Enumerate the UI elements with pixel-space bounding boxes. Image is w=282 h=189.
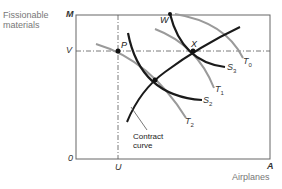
t1-label: T1	[215, 84, 224, 96]
box-frame	[76, 15, 270, 159]
s3-label: S3	[227, 62, 236, 74]
contract-curve	[127, 27, 240, 122]
curve-t0	[175, 14, 243, 58]
contract-curve-label-line2: curve	[133, 141, 163, 150]
y-axis-label-line1: Fissionable	[3, 10, 49, 20]
point-x-marker	[191, 49, 196, 54]
x-axis-label: Airplanes	[232, 172, 270, 182]
contract-curve-label-line1: Contract	[133, 132, 163, 141]
t2-label: T2	[185, 116, 194, 128]
intersection-marker	[153, 78, 158, 83]
y-axis-label: Fissionable materials	[3, 10, 49, 30]
y-axis-label-line2: materials	[3, 20, 49, 30]
point-p-label: P	[121, 40, 127, 50]
point-p-marker	[116, 49, 121, 54]
contract-curve-leader	[131, 107, 147, 130]
s2-label: S2	[203, 95, 212, 107]
contract-curve-label: Contract curve	[133, 132, 163, 150]
t0-label: T0	[243, 56, 252, 68]
x-ref-label: U	[115, 162, 122, 172]
origin-label: 0	[68, 153, 73, 163]
y-ref-label: V	[66, 45, 72, 55]
curve-t2	[96, 44, 186, 118]
y-max-label: M	[66, 9, 74, 19]
point-w-label: W	[160, 15, 169, 25]
x-max-label: A	[267, 161, 274, 171]
point-x-label: X	[191, 39, 197, 49]
